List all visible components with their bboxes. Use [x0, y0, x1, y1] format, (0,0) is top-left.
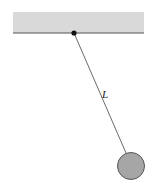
pendulum-string: [74, 33, 126, 153]
ceiling-support: [13, 12, 144, 33]
pendulum-diagram: L: [0, 0, 153, 191]
pendulum-bob: [118, 153, 145, 180]
pivot-point: [71, 30, 76, 35]
length-label: L: [101, 88, 108, 100]
